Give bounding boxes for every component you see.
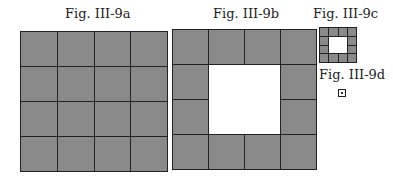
figure-label-c: Fig. III-9c: [313, 6, 378, 21]
grid-cell: [95, 102, 131, 136]
grid-cell: [131, 32, 167, 66]
grid-cell: [329, 28, 337, 36]
grid-cell: [281, 65, 316, 99]
grid-cell: [95, 137, 131, 171]
grid-cell: [348, 54, 356, 62]
grid-cell: [341, 92, 343, 94]
figure-label-a: Fig. III-9a: [65, 6, 131, 21]
grid-cell: [21, 32, 57, 66]
grid-cell: [348, 37, 356, 45]
grid-cell: [339, 54, 347, 62]
figure-label-b: Fig. III-9b: [213, 6, 279, 21]
grid-cell: [320, 54, 328, 62]
grid-hole: [329, 37, 347, 54]
figure-label-d: Fig. III-9d: [319, 67, 385, 82]
grid-cell: [245, 30, 280, 64]
grid-cell: [339, 28, 347, 36]
grid-cell: [320, 28, 328, 36]
grid-figure-a: [20, 31, 168, 172]
grid-cell: [281, 30, 316, 64]
grid-cell: [131, 67, 167, 101]
grid-cell: [131, 137, 167, 171]
grid-figure-b: [172, 29, 317, 170]
grid-cell: [95, 67, 131, 101]
grid-cell: [173, 65, 208, 99]
grid-cell: [95, 32, 131, 66]
grid-cell: [329, 54, 337, 62]
grid-cell: [320, 37, 328, 45]
grid-cell: [348, 46, 356, 54]
grid-cell: [173, 30, 208, 64]
grid-cell: [58, 102, 94, 136]
grid-cell: [173, 135, 208, 169]
grid-cell: [58, 67, 94, 101]
grid-cell: [21, 67, 57, 101]
grid-cell: [21, 137, 57, 171]
grid-cell: [281, 100, 316, 134]
grid-cell: [58, 137, 94, 171]
grid-cell: [173, 100, 208, 134]
grid-figure-d: [338, 89, 346, 97]
grid-cell: [209, 30, 244, 64]
grid-figure-c: [319, 27, 357, 63]
grid-cell: [281, 135, 316, 169]
grid-cell: [245, 135, 280, 169]
grid-hole: [209, 65, 280, 134]
grid-cell: [131, 102, 167, 136]
grid-cell: [209, 135, 244, 169]
grid-cell: [320, 46, 328, 54]
grid-cell: [348, 28, 356, 36]
grid-cell: [21, 102, 57, 136]
grid-cell: [58, 32, 94, 66]
